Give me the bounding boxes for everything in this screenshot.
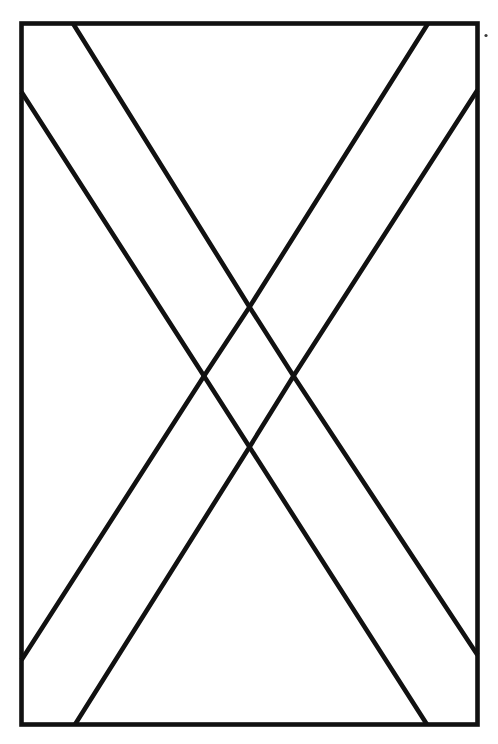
drawing-canvas [0,0,498,744]
saltire-flag-drawing [0,0,498,744]
canvas-background [0,0,498,744]
ink-speck-artifact [484,34,487,37]
